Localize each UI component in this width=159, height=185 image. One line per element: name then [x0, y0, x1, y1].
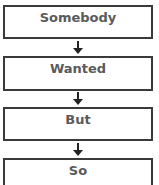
step-box-but: But	[3, 107, 153, 141]
step-box-so: So	[3, 158, 153, 185]
step-box-wanted: Wanted	[3, 56, 153, 91]
step-label: So	[5, 160, 151, 179]
step-label: Wanted	[5, 58, 151, 77]
down-arrow-icon	[72, 143, 84, 157]
step-label: But	[5, 109, 151, 128]
down-arrow-icon	[72, 92, 84, 106]
down-arrow-icon	[72, 41, 84, 55]
step-label: Somebody	[5, 7, 151, 26]
step-box-somebody: Somebody	[3, 5, 153, 39]
